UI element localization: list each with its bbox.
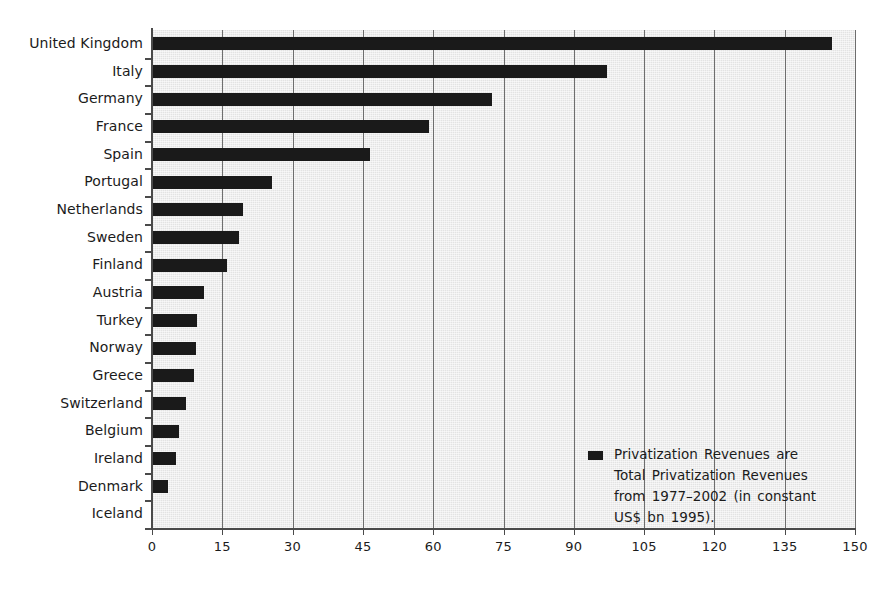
- category-label-iceland: Iceland: [92, 505, 143, 521]
- y-tick-mark: [145, 362, 152, 364]
- bar: [152, 120, 429, 133]
- category-label-finland: Finland: [92, 256, 143, 272]
- y-tick-mark: [145, 528, 152, 530]
- bar: [152, 314, 197, 327]
- category-label-greece: Greece: [93, 367, 143, 383]
- bar: [152, 176, 272, 189]
- category-label-turkey: Turkey: [97, 312, 143, 328]
- y-tick-mark: [145, 58, 152, 60]
- x-tick-mark: [433, 528, 434, 535]
- category-label-france: France: [96, 118, 143, 134]
- y-tick-mark: [145, 417, 152, 419]
- bar: [152, 231, 239, 244]
- category-label-norway: Norway: [89, 339, 143, 355]
- legend-line: from 1977–2002 (in constant: [614, 486, 842, 507]
- y-tick-mark: [145, 141, 152, 143]
- x-tick-label: 0: [148, 539, 156, 554]
- x-tick-mark: [855, 528, 856, 535]
- category-label-spain: Spain: [103, 146, 143, 162]
- category-label-italy: Italy: [112, 63, 143, 79]
- gridline: [574, 30, 575, 528]
- legend-text: Privatization Revenues areTotal Privatiz…: [614, 444, 842, 528]
- y-tick-mark: [145, 251, 152, 253]
- legend-line: Privatization Revenues are: [614, 444, 842, 465]
- bar: [152, 148, 370, 161]
- x-tick-mark: [152, 528, 153, 535]
- legend-line: Total Privatization Revenues: [614, 465, 842, 486]
- bar: [152, 93, 492, 106]
- category-label-netherlands: Netherlands: [57, 201, 143, 217]
- category-label-united-kingdom: United Kingdom: [29, 35, 143, 51]
- x-tick-mark: [363, 528, 364, 535]
- legend-line: US$ bn 1995).: [614, 507, 842, 528]
- y-tick-mark: [145, 196, 152, 198]
- x-tick-label: 135: [772, 539, 797, 554]
- category-label-sweden: Sweden: [87, 229, 143, 245]
- category-label-switzerland: Switzerland: [60, 395, 143, 411]
- bar: [152, 37, 832, 50]
- y-tick-mark: [145, 390, 152, 392]
- category-label-austria: Austria: [93, 284, 143, 300]
- y-tick-mark: [145, 445, 152, 447]
- y-tick-mark: [145, 500, 152, 502]
- x-tick-label: 105: [631, 539, 656, 554]
- legend-swatch-icon: [588, 451, 603, 460]
- bar: [152, 342, 196, 355]
- bar: [152, 369, 194, 382]
- category-label-denmark: Denmark: [78, 478, 143, 494]
- bar: [152, 286, 204, 299]
- x-tick-label: 90: [565, 539, 582, 554]
- x-tick-mark: [504, 528, 505, 535]
- x-tick-label: 150: [842, 539, 867, 554]
- bar: [152, 65, 607, 78]
- x-tick-label: 45: [354, 539, 371, 554]
- bar: [152, 480, 168, 493]
- y-tick-mark: [145, 168, 152, 170]
- category-label-ireland: Ireland: [94, 450, 143, 466]
- privatization-revenues-bar-chart: 0153045607590105120135150 United Kingdom…: [0, 0, 890, 593]
- bar: [152, 452, 176, 465]
- x-tick-label: 60: [425, 539, 442, 554]
- gridline: [855, 30, 856, 528]
- y-tick-mark: [145, 85, 152, 87]
- bar: [152, 425, 179, 438]
- x-tick-label: 30: [284, 539, 301, 554]
- x-tick-mark: [785, 528, 786, 535]
- y-tick-mark: [145, 279, 152, 281]
- y-tick-mark: [145, 224, 152, 226]
- x-tick-label: 15: [214, 539, 231, 554]
- x-tick-mark: [574, 528, 575, 535]
- bar: [152, 259, 227, 272]
- category-label-germany: Germany: [78, 90, 143, 106]
- x-tick-label: 75: [495, 539, 512, 554]
- x-tick-label: 120: [702, 539, 727, 554]
- gridline: [504, 30, 505, 528]
- y-tick-mark: [145, 307, 152, 309]
- category-label-portugal: Portugal: [84, 173, 143, 189]
- x-tick-mark: [222, 528, 223, 535]
- x-tick-mark: [293, 528, 294, 535]
- x-tick-mark: [644, 528, 645, 535]
- bar: [152, 203, 243, 216]
- y-tick-mark: [145, 473, 152, 475]
- bar: [152, 397, 186, 410]
- y-tick-mark: [145, 334, 152, 336]
- category-label-belgium: Belgium: [85, 422, 143, 438]
- x-tick-mark: [714, 528, 715, 535]
- y-tick-mark: [145, 113, 152, 115]
